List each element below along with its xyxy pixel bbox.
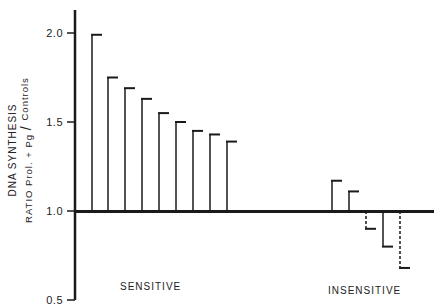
y-axis-title-ratio: RATIO Prol. + Pg bbox=[23, 134, 34, 223]
y-axis-title-2: RATIO Prol. + Pg / Controls bbox=[18, 77, 34, 223]
group-label-sensitive: SENSITIVE bbox=[120, 281, 181, 292]
group-label-insensitive: INSENSITIVE bbox=[328, 285, 401, 296]
y-tick-label: 1.5 bbox=[46, 116, 63, 128]
y-axis-title-line1: DNA SYNTHESIS bbox=[7, 103, 18, 196]
slash: / bbox=[18, 121, 34, 131]
y-tick-label: 2.0 bbox=[46, 27, 63, 39]
y-axis-title: DNA SYNTHESIS bbox=[7, 103, 18, 196]
y-tick-label: 0.5 bbox=[46, 294, 63, 305]
y-axis-title-controls: Controls bbox=[19, 77, 30, 120]
y-axis-title-line2: RATIO Prol. + Pg / Controls bbox=[18, 77, 34, 223]
bars bbox=[91, 35, 410, 268]
y-axis: 0.51.01.52.0 bbox=[46, 10, 75, 305]
dna-synthesis-chart: 0.51.01.52.0 SENSITIVE INSENSITIVE DNA S… bbox=[0, 0, 439, 305]
y-tick-label: 1.0 bbox=[46, 205, 63, 217]
